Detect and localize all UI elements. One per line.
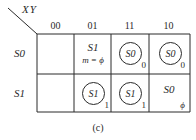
next-state: S0 bbox=[150, 83, 188, 95]
stable-state-circle: S1 bbox=[82, 82, 105, 105]
cell-s1-01: S1 1 bbox=[74, 75, 112, 113]
column-header-00: 00 bbox=[37, 20, 74, 31]
stable-state-circle: S0 bbox=[119, 42, 142, 65]
cell-s0-10: S0 0 bbox=[150, 35, 188, 73]
row-label-s0: S0 bbox=[14, 47, 25, 59]
column-header-10: 10 bbox=[150, 20, 187, 31]
output-note: m = ϕ bbox=[74, 55, 112, 65]
output-value: 0 bbox=[142, 60, 147, 70]
output-value: ϕ bbox=[180, 100, 185, 110]
cell-s0-11: S0 0 bbox=[111, 35, 149, 73]
output-value: 0 bbox=[181, 60, 186, 70]
next-state: S1 bbox=[74, 41, 112, 53]
stable-state-circle: S0 bbox=[159, 42, 182, 65]
cell-s1-10: S0 ϕ bbox=[150, 75, 188, 113]
column-header-11: 11 bbox=[111, 20, 148, 31]
row-label-s1: S1 bbox=[14, 87, 25, 99]
output-value: 1 bbox=[105, 100, 110, 110]
cell-s1-11: S1 1 bbox=[111, 75, 149, 113]
column-header-01: 01 bbox=[74, 20, 111, 31]
figure-caption: (c) bbox=[0, 122, 196, 133]
stable-state-circle: S1 bbox=[119, 82, 142, 105]
corner-label: XY bbox=[22, 3, 37, 15]
cell-s0-01: S1 m = ϕ bbox=[74, 35, 112, 73]
output-value: 1 bbox=[142, 100, 147, 110]
